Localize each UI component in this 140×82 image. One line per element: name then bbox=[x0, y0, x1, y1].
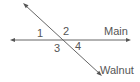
arrowhead-left-icon bbox=[10, 38, 15, 42]
angle-label-2: 2 bbox=[63, 25, 69, 37]
angle-label-1: 1 bbox=[37, 27, 43, 39]
intersecting-lines-diagram: 1 2 3 4 Main Walnut bbox=[0, 0, 140, 82]
angle-label-4: 4 bbox=[75, 40, 81, 52]
arrowhead-right-icon bbox=[126, 38, 131, 42]
main-street-label: Main bbox=[104, 25, 128, 37]
main-line bbox=[10, 38, 131, 42]
walnut-street-label: Walnut bbox=[100, 64, 134, 76]
angle-label-3: 3 bbox=[54, 42, 60, 54]
